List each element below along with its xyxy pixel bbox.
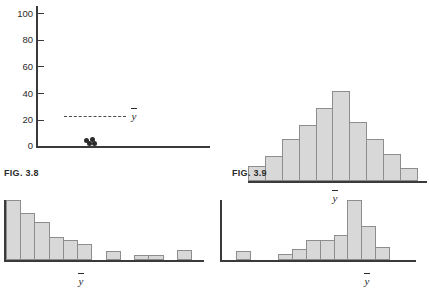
bar [332,91,350,181]
fig38-tick-40 [38,93,44,94]
bar [20,213,35,260]
bar [320,240,335,260]
fig38-y-label-40: 40 [0,89,33,98]
figure-bottom-left: y [4,200,215,305]
figBL-x-axis [4,260,204,262]
fig38-y-label-0: 0 [0,141,33,150]
bar [349,122,367,181]
fig39-bars [248,91,427,181]
bar [366,139,384,181]
bar [316,108,334,181]
bar [306,240,321,260]
bar [334,235,349,260]
bar [236,251,251,260]
figBR-bars [222,200,416,260]
bar [400,168,418,181]
bar [134,255,149,260]
fig38-y-label-20: 20 [0,115,33,124]
figBR-ybar-text: y [365,275,370,287]
bar [34,222,49,260]
bar [49,237,64,260]
bar [361,226,376,260]
figure-bottom-right: y [220,200,429,305]
bar [177,250,192,260]
fig38-tick-60 [38,66,44,67]
fig39-x-axis [248,181,427,183]
bar [265,156,283,181]
bar [106,251,121,260]
bar [77,244,92,260]
fig38-x-axis [36,146,210,148]
figBL-ybar-text: y [79,275,84,287]
figure-3-9: y FIG. 3.9 [248,38,429,183]
figBL-bars [6,200,204,260]
figBL-x-axis-label: y [78,273,84,287]
bar [299,125,317,181]
figBR-x-axis-label: y [364,273,370,287]
bar [347,200,362,260]
fig38-mean-dashed-line [64,116,126,117]
fig38-tick-100 [38,13,44,14]
fig38-ybar-text: y [132,110,137,122]
bar [148,255,163,260]
fig38-tick-0 [38,146,44,147]
fig38-tick-20 [38,120,44,121]
fig38-y-label-60: 60 [0,62,33,71]
bar [383,154,401,181]
figure-3-8-caption: FIG. 3.8 [4,168,39,178]
figure-3-9-caption: FIG. 3.9 [232,168,267,178]
fig38-y-label-80: 80 [0,35,33,44]
bar [375,247,390,260]
bar [292,249,307,260]
fig38-y-label-100: 100 [0,9,33,18]
figure-3-8: 100 80 60 40 20 0 y FIG. 3.8 [0,0,215,190]
figBR-x-axis [220,260,416,262]
bar [63,240,78,260]
fig38-ybar-annotation: y [131,108,137,122]
fig38-tick-80 [38,40,44,41]
bar [6,200,21,260]
bar [278,254,293,260]
fig38-y-axis [36,6,38,147]
bar [282,139,300,181]
data-point [92,141,97,146]
